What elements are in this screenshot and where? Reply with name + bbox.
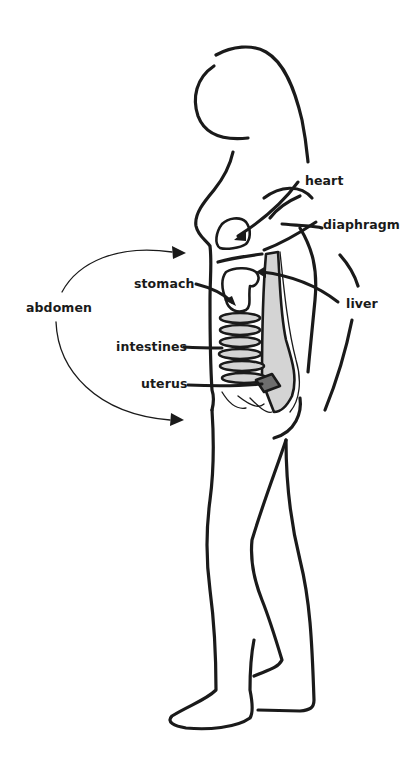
buttock-outline <box>325 320 352 410</box>
back-outline-lower <box>340 255 358 286</box>
label-diaphragm: diaphragm <box>323 219 400 232</box>
intestines-organ <box>219 313 266 383</box>
label-liver: liver <box>346 298 378 311</box>
uterus-pointer <box>188 384 262 386</box>
back-leg-outline <box>251 440 286 676</box>
head-outline <box>195 47 308 162</box>
label-intestines: intestines <box>116 341 187 354</box>
diaphragm-pointer-2 <box>282 224 322 228</box>
diaphragm-organ <box>218 254 262 262</box>
front-leg-outline <box>170 410 254 729</box>
intestines-pointer <box>184 347 222 348</box>
label-uterus: uterus <box>141 378 187 391</box>
abdomen-arrowhead-upper <box>172 246 186 259</box>
anatomy-diagram <box>0 0 414 776</box>
hip-outline <box>300 228 316 372</box>
label-heart: heart <box>305 175 343 188</box>
pelvic-lines <box>222 392 272 412</box>
abdomen-arc-lower <box>56 322 170 420</box>
abdomen-arrowhead-lower <box>170 413 184 426</box>
stomach-organ <box>222 268 258 311</box>
label-stomach: stomach <box>134 278 194 291</box>
label-abdomen: abdomen <box>26 302 92 315</box>
